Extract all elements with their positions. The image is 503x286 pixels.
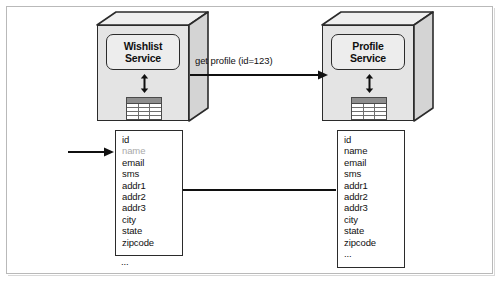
service-name-line1: Profile — [352, 40, 383, 53]
database-table-icon — [351, 97, 387, 120]
field-list-ellipsis: ... — [121, 256, 129, 267]
vertical-double-arrow-icon — [364, 74, 375, 93]
service-name-line2: Service — [125, 52, 161, 65]
field-row: addr2 — [344, 191, 404, 202]
field-row: id — [122, 134, 182, 145]
field-list-wishlist[interactable]: id name email sms addr1 addr2 addr3 city… — [115, 130, 183, 256]
field-list-profile[interactable]: id name email sms addr1 addr2 addr3 city… — [337, 130, 405, 268]
field-list-ellipsis: ... — [344, 248, 404, 259]
field-row: city — [344, 214, 404, 225]
field-row-name: name — [344, 145, 404, 156]
field-row-name: name — [122, 145, 182, 156]
field-row: addr1 — [344, 180, 404, 191]
field-row: sms — [122, 168, 182, 179]
service-name-line1: Wishlist — [124, 40, 163, 53]
field-row: addr3 — [122, 202, 182, 213]
field-row: email — [344, 157, 404, 168]
service-label-wishlist: Wishlist Service — [106, 34, 180, 70]
arrow-right-icon — [190, 69, 330, 81]
field-row: addr1 — [122, 180, 182, 191]
field-row: addr2 — [122, 191, 182, 202]
field-row: id — [344, 134, 404, 145]
field-row: sms — [344, 168, 404, 179]
diagram-canvas: Wishlist Service Profile — [0, 0, 503, 286]
field-row: zipcode — [122, 237, 182, 248]
table-grid — [352, 104, 386, 119]
service-box-wishlist[interactable]: Wishlist Service — [97, 12, 209, 122]
field-row: addr3 — [344, 202, 404, 213]
field-row: email — [122, 157, 182, 168]
service-name-line2: Service — [350, 52, 386, 65]
service-box-profile[interactable]: Profile Service — [322, 12, 434, 122]
table-grid — [127, 104, 161, 119]
database-table-icon — [126, 97, 162, 120]
field-pointer-arrow-right-icon — [68, 146, 116, 158]
arrow-left-icon — [173, 184, 338, 196]
field-row: city — [122, 214, 182, 225]
service-label-profile: Profile Service — [331, 34, 405, 70]
field-row: zipcode — [344, 237, 404, 248]
request-arrow-label: get profile (id=123) — [195, 55, 272, 66]
field-row: state — [344, 225, 404, 236]
field-row: state — [122, 225, 182, 236]
vertical-double-arrow-icon — [139, 74, 150, 93]
